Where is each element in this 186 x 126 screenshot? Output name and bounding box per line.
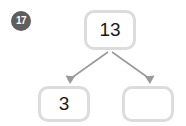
number-box-child-left-value: 3 bbox=[41, 89, 87, 119]
number-box-parent[interactable]: 13 bbox=[84, 10, 136, 50]
arrow-line-left bbox=[70, 52, 108, 79]
number-box-child-left[interactable]: 3 bbox=[38, 86, 90, 122]
arrow-line-right bbox=[112, 52, 150, 79]
number-box-parent-value: 13 bbox=[87, 13, 133, 47]
arrowhead-left-icon bbox=[66, 76, 76, 85]
number-box-child-right[interactable] bbox=[122, 86, 174, 122]
arrowhead-right-icon bbox=[145, 76, 155, 85]
number-bond-worksheet: 17 13 3 bbox=[0, 0, 186, 126]
